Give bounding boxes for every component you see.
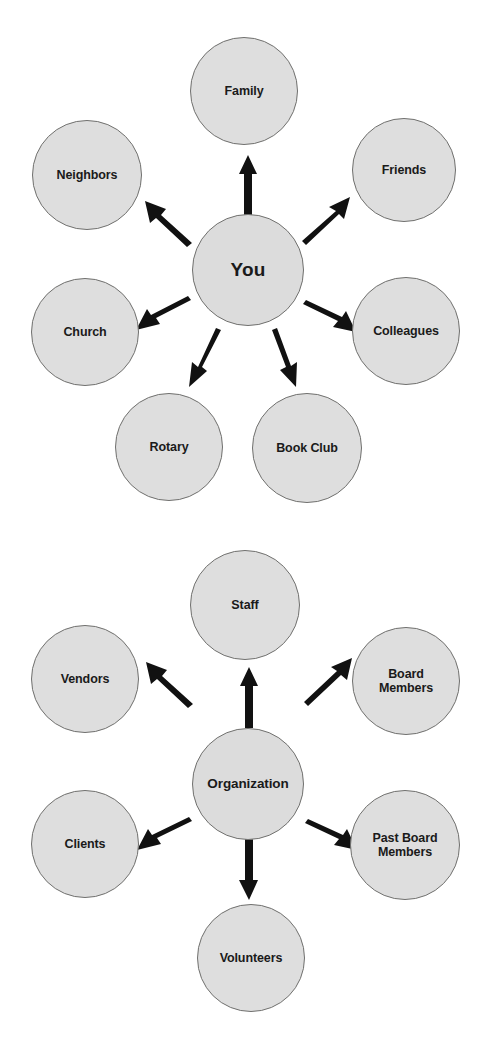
personal-network-diagram: You Family Friends Neighbors Colleagues … [0,0,492,528]
arrow-you-to-rotary [189,328,221,387]
node-family-label: Family [197,84,291,98]
node-book-club-label: Book Club [259,441,355,455]
node-neighbors[interactable]: Neighbors [32,120,142,230]
node-vendors-label: Vendors [38,672,132,686]
node-board-members[interactable]: Board Members [352,627,460,735]
arrow-you-to-church [136,296,191,330]
node-colleagues-label: Colleagues [359,324,453,338]
node-past-board-members[interactable]: Past Board Members [350,790,460,900]
node-past-board-members-label: Past Board Members [357,831,453,859]
node-clients[interactable]: Clients [31,790,139,898]
node-staff-label: Staff [197,598,293,612]
node-staff[interactable]: Staff [190,550,300,660]
node-friends[interactable]: Friends [352,118,456,222]
arrow-organization-to-board-members [304,658,352,706]
arrow-you-to-colleagues [303,300,356,332]
arrow-organization-to-staff [240,667,258,728]
node-friends-label: Friends [359,163,449,177]
arrow-you-to-friends [302,197,350,245]
arrow-you-to-family [239,155,257,216]
organization-network-diagram: Organization Staff Board Members Vendors… [0,528,492,1052]
arrow-organization-to-clients [137,817,192,850]
node-you[interactable]: You [192,214,304,326]
node-family[interactable]: Family [190,37,298,145]
node-neighbors-label: Neighbors [39,168,135,182]
arrow-organization-to-vendors [146,662,193,708]
node-organization[interactable]: Organization [192,728,304,840]
node-board-members-label: Board Members [359,667,453,695]
arrow-organization-to-volunteers [239,839,258,900]
arrow-you-to-neighbors [145,201,192,247]
node-vendors[interactable]: Vendors [31,625,139,733]
diagram-page: You Family Friends Neighbors Colleagues … [0,0,492,1052]
node-rotary-label: Rotary [122,440,216,454]
node-volunteers[interactable]: Volunteers [197,904,305,1012]
node-clients-label: Clients [38,837,132,851]
node-organization-label: Organization [199,776,297,791]
arrow-you-to-book-club [272,328,297,387]
node-book-club[interactable]: Book Club [252,393,362,503]
node-church-label: Church [38,325,132,339]
node-you-label: You [199,259,297,280]
node-church[interactable]: Church [31,278,139,386]
node-colleagues[interactable]: Colleagues [352,277,460,385]
node-volunteers-label: Volunteers [204,951,298,965]
node-rotary[interactable]: Rotary [115,393,223,501]
